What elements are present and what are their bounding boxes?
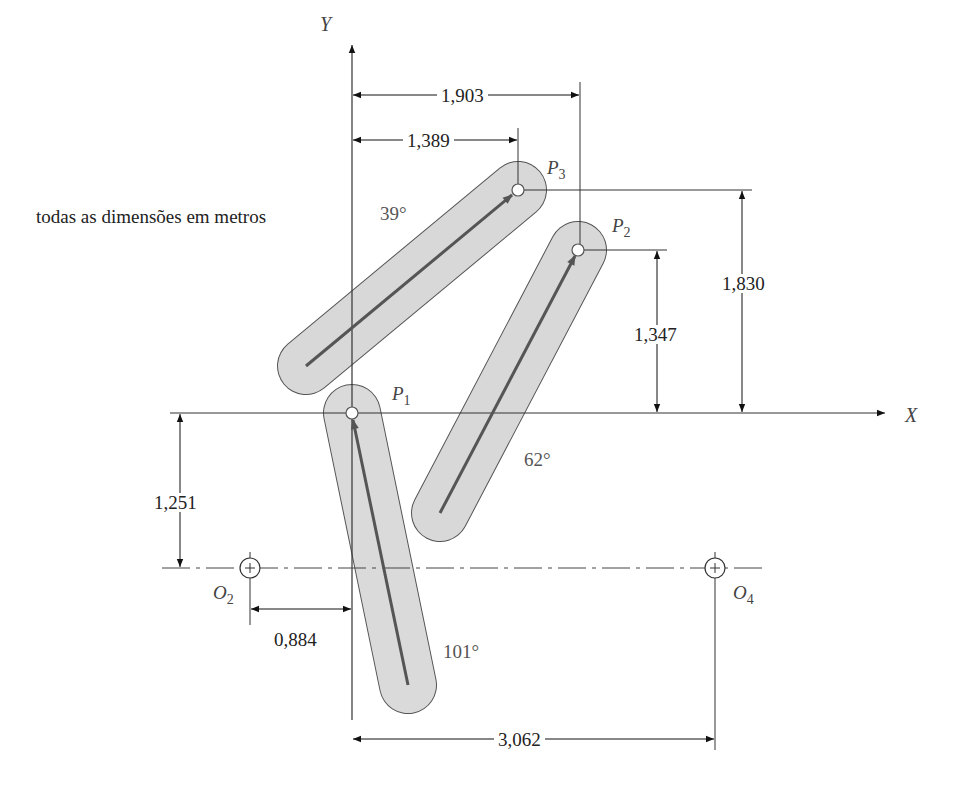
dim-1903: 1,903	[437, 86, 488, 105]
angle-101: 101°	[443, 642, 479, 661]
label-o2: O2	[213, 583, 234, 602]
ground-pivot-o2	[240, 558, 260, 578]
linkage-diagram	[0, 0, 976, 797]
ground-pivot-o4	[705, 558, 725, 578]
vector-link-p3	[306, 195, 512, 366]
units-note: todas as dimensões em metros	[36, 207, 266, 226]
vector-link-p2	[440, 256, 575, 513]
label-p3: P3	[547, 158, 566, 177]
pivot-p2	[572, 244, 584, 256]
label-p1: P1	[392, 384, 411, 403]
label-p2: P2	[612, 216, 631, 235]
angle-39: 39°	[380, 204, 407, 223]
dim-1347: 1,347	[630, 325, 681, 344]
y-axis-label: Y	[320, 14, 331, 34]
pivot-p3	[512, 184, 524, 196]
label-o4: O4	[733, 583, 754, 602]
dim-3062: 3,062	[494, 730, 545, 749]
dim-0884: 0,884	[274, 630, 317, 649]
pivot-p1	[346, 407, 358, 419]
x-axis-label: X	[905, 405, 917, 425]
dim-1830: 1,830	[718, 274, 769, 293]
angle-62: 62°	[524, 450, 551, 469]
dim-1389: 1,389	[403, 131, 454, 150]
dim-1251: 1,251	[150, 493, 201, 512]
